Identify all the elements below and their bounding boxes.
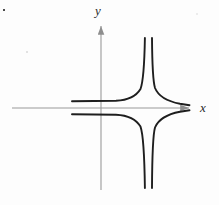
scan-speck-artifact [26, 51, 28, 53]
graph-canvas [0, 0, 219, 205]
lower-right-branch [152, 110, 190, 188]
upper-left-branch [72, 38, 145, 101]
y-axis-label: y [95, 4, 101, 17]
axes-group [12, 26, 189, 190]
scan-speck-artifact [3, 9, 5, 11]
scan-speck-artifact [196, 13, 198, 15]
upper-right-branch [152, 38, 190, 105]
lower-left-branch [72, 114, 145, 188]
curves-group [72, 38, 190, 188]
x-axis-label: x [200, 101, 206, 114]
graph-figure: y x [0, 0, 219, 205]
